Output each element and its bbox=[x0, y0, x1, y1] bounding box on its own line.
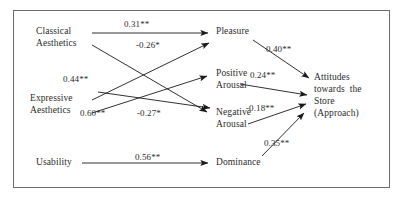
coefficient-expressive-to-pleasure: 0.44** bbox=[63, 74, 88, 84]
node-positive-arousal: PositiveArousal bbox=[216, 68, 247, 91]
node-expressive-aesthetics-line1: Expressive bbox=[30, 93, 73, 103]
node-expressive-aesthetics-line2: Aesthetics bbox=[30, 105, 71, 115]
arrow-dominance-to-attitudes bbox=[262, 113, 304, 156]
node-attitudes-line4: (Approach) bbox=[314, 107, 388, 119]
coefficient-negative-arousal-to-attitudes: -0.18** bbox=[246, 103, 274, 113]
node-classical-aesthetics: ClassicalAesthetics bbox=[36, 26, 77, 49]
coefficient-positive-arousal-to-attitudes: 0.24** bbox=[250, 70, 275, 80]
node-dominance: Dominance bbox=[216, 157, 261, 169]
node-attitudes-line1: Attitudes bbox=[314, 71, 388, 83]
node-positive-arousal-line2: Arousal bbox=[216, 80, 247, 90]
node-attitudes-line3: Store bbox=[314, 95, 388, 107]
coefficient-usability-to-dominance: 0.56** bbox=[135, 152, 160, 162]
node-expressive-aesthetics: ExpressiveAesthetics bbox=[30, 93, 73, 116]
coefficient-pleasure-to-attitudes: 0.40** bbox=[266, 44, 291, 54]
coefficient-expressive-to-negative-arousal: -0.27* bbox=[137, 108, 161, 118]
node-negative-arousal-line2: Arousal bbox=[216, 119, 247, 129]
node-attitudes-line2: towards the bbox=[314, 83, 388, 95]
coefficient-expressive-to-positive-arousal: 0.60** bbox=[80, 108, 105, 118]
node-classical-aesthetics-line2: Aesthetics bbox=[36, 38, 77, 48]
node-pleasure-label: Pleasure bbox=[216, 26, 249, 36]
arrow-classical-to-negative-arousal bbox=[92, 45, 207, 112]
figure-canvas: ClassicalAesthetics ExpressiveAesthetics… bbox=[0, 0, 406, 199]
node-usability-label: Usability bbox=[36, 157, 72, 167]
node-usability: Usability bbox=[36, 157, 72, 169]
node-attitudes-towards-store: Attitudes towards the Store (Approach) bbox=[314, 71, 388, 119]
node-dominance-label: Dominance bbox=[216, 157, 261, 167]
node-pleasure: Pleasure bbox=[216, 26, 249, 38]
coefficient-dominance-to-attitudes: 0.35** bbox=[264, 138, 289, 148]
node-positive-arousal-line1: Positive bbox=[216, 68, 247, 78]
arrow-positive-arousal-to-attitudes bbox=[240, 84, 307, 95]
arrow-expressive-to-pleasure bbox=[92, 43, 209, 100]
coefficient-classical-to-negative-arousal: -0.26* bbox=[136, 40, 160, 50]
coefficient-classical-to-pleasure: 0.31** bbox=[124, 19, 149, 29]
node-classical-aesthetics-line1: Classical bbox=[36, 26, 71, 36]
